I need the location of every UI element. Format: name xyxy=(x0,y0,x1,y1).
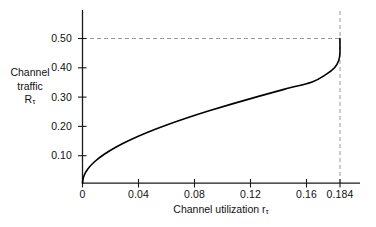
x-tick-label-0.08: 0.08 xyxy=(175,188,215,200)
x-tick-label-0.12: 0.12 xyxy=(231,188,271,200)
data-curve xyxy=(83,39,341,184)
y-axis-title: Channel traffic Rτ xyxy=(4,66,56,109)
y-axis-title-line3: Rτ xyxy=(4,93,56,109)
x-axis-title: Channel utilization rτ xyxy=(82,203,360,216)
x-tick-label-0.04: 0.04 xyxy=(119,188,159,200)
y-tick-label-0.10: 0.10 xyxy=(38,149,72,161)
chart-figure: 0.50 0.40 0.30 0.20 0.10 0 0.04 0.08 0.1… xyxy=(0,0,376,227)
y-axis-title-line2: traffic xyxy=(4,80,56,94)
y-tick-label-0.50: 0.50 xyxy=(38,32,72,44)
x-tick-label-0: 0 xyxy=(63,188,103,200)
y-axis-title-subscript: τ xyxy=(32,97,35,106)
y-tick-label-0.20: 0.20 xyxy=(38,120,72,132)
x-axis-title-subscript: τ xyxy=(266,207,269,216)
x-tick-label-0.184: 0.184 xyxy=(320,188,360,200)
y-axis-title-line1: Channel xyxy=(4,66,56,80)
x-axis-title-text: Channel utilization r xyxy=(173,203,265,215)
